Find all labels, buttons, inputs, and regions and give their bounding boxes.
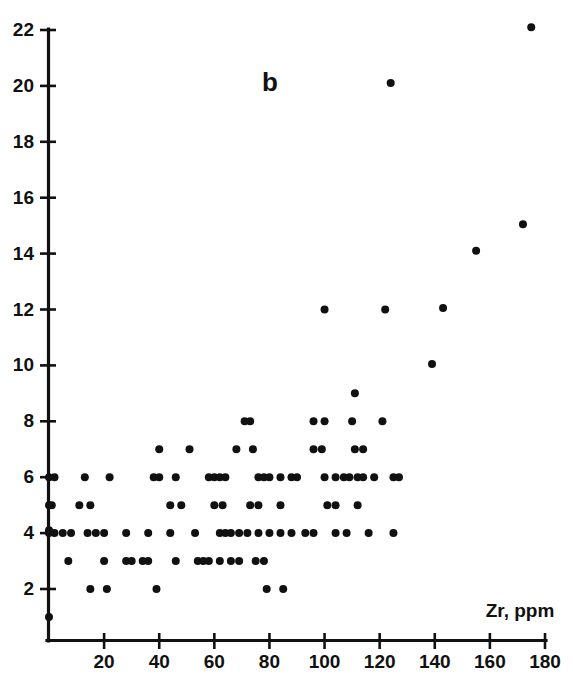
- data-point: [263, 585, 271, 593]
- scatter-plot-figure: 246810121416182022 204060801001201401601…: [0, 0, 573, 687]
- data-point: [103, 585, 111, 593]
- data-point: [472, 247, 480, 255]
- data-point: [310, 529, 318, 537]
- plot-canvas: 246810121416182022 204060801001201401601…: [0, 0, 573, 687]
- data-point: [246, 417, 254, 425]
- y-tick-label: 16: [13, 187, 34, 208]
- data-point: [45, 613, 53, 621]
- data-point: [276, 529, 284, 537]
- data-point: [64, 557, 72, 565]
- data-point: [321, 417, 329, 425]
- data-point: [287, 529, 295, 537]
- data-point: [332, 529, 340, 537]
- data-point: [310, 417, 318, 425]
- data-point: [345, 473, 353, 481]
- data-point: [75, 501, 83, 509]
- y-tick-label: 18: [13, 131, 34, 152]
- data-point: [227, 529, 235, 537]
- data-point: [191, 529, 199, 537]
- data-point: [106, 473, 114, 481]
- data-point: [232, 445, 240, 453]
- data-point: [365, 529, 373, 537]
- data-point: [265, 529, 273, 537]
- data-point: [210, 501, 218, 509]
- data-point: [387, 79, 395, 87]
- data-point: [177, 501, 185, 509]
- data-point: [152, 585, 160, 593]
- data-point: [235, 557, 243, 565]
- data-point: [51, 473, 59, 481]
- data-point: [310, 445, 318, 453]
- data-point: [279, 585, 287, 593]
- data-point: [86, 585, 94, 593]
- x-tick-label: 120: [364, 651, 396, 672]
- data-point: [332, 501, 340, 509]
- data-point: [172, 473, 180, 481]
- data-point: [249, 445, 257, 453]
- y-tick-label: 2: [23, 578, 34, 599]
- data-point: [166, 529, 174, 537]
- data-point: [351, 389, 359, 397]
- y-tick-label: 8: [23, 410, 34, 431]
- axis-lines: [47, 29, 546, 641]
- data-point: [428, 360, 436, 368]
- y-tick-label: 6: [23, 466, 34, 487]
- data-point: [155, 445, 163, 453]
- data-point: [122, 529, 130, 537]
- data-point: [235, 529, 243, 537]
- data-point: [348, 417, 356, 425]
- data-point: [321, 473, 329, 481]
- x-tick-label: 180: [529, 651, 561, 672]
- data-point: [332, 473, 340, 481]
- x-axis-title: Zr, ppm: [486, 600, 555, 621]
- data-point: [354, 501, 362, 509]
- data-point: [321, 306, 329, 314]
- data-point: [260, 557, 268, 565]
- data-point: [351, 445, 359, 453]
- data-point: [395, 473, 403, 481]
- y-tick-label: 22: [13, 19, 34, 40]
- data-point: [301, 529, 309, 537]
- data-point: [254, 529, 262, 537]
- x-tick-label: 60: [204, 651, 225, 672]
- y-tick-label: 10: [13, 354, 34, 375]
- y-tick-label: 4: [23, 522, 34, 543]
- data-point: [323, 501, 331, 509]
- data-point: [51, 529, 59, 537]
- data-point: [144, 529, 152, 537]
- data-point: [166, 501, 174, 509]
- data-point: [84, 529, 92, 537]
- data-point: [519, 220, 527, 228]
- data-point: [254, 501, 262, 509]
- data-point: [92, 529, 100, 537]
- y-tick-label: 14: [13, 243, 35, 264]
- data-point: [527, 23, 535, 31]
- x-tick-label: 140: [419, 651, 451, 672]
- data-point: [100, 529, 108, 537]
- x-tick-label: 40: [149, 651, 170, 672]
- data-point: [293, 473, 301, 481]
- data-point: [67, 529, 75, 537]
- data-point: [172, 557, 180, 565]
- data-point: [359, 445, 367, 453]
- data-point: [381, 306, 389, 314]
- data-point: [243, 529, 251, 537]
- data-point: [219, 501, 227, 509]
- data-point: [265, 473, 273, 481]
- data-point: [128, 557, 136, 565]
- data-point: [221, 473, 229, 481]
- x-axis-ticks: 20406080100120140160180: [94, 633, 561, 672]
- y-tick-label: 12: [13, 299, 34, 320]
- data-point-group: [45, 23, 535, 621]
- data-point: [246, 501, 254, 509]
- data-point: [318, 445, 326, 453]
- x-tick-label: 80: [259, 651, 280, 672]
- data-point: [343, 529, 351, 537]
- data-point: [359, 473, 367, 481]
- data-point: [370, 473, 378, 481]
- x-tick-label: 20: [94, 651, 115, 672]
- data-point: [81, 473, 89, 481]
- data-point: [48, 501, 56, 509]
- y-tick-label: 20: [13, 75, 34, 96]
- x-tick-label: 100: [309, 651, 341, 672]
